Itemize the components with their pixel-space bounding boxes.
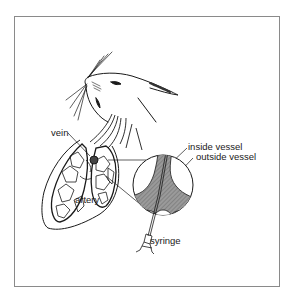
label-artery: artery	[75, 195, 99, 205]
label-vein: vein	[51, 128, 68, 138]
trachea	[90, 114, 142, 150]
label-outside-vessel: outside vessel	[196, 152, 256, 162]
lung	[42, 140, 119, 229]
rat-head	[66, 52, 178, 122]
label-syringe: syringe	[150, 236, 181, 246]
